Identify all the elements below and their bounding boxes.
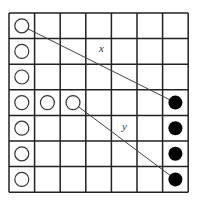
open-circle-icon xyxy=(15,172,29,186)
filled-circle-icon xyxy=(168,121,182,135)
open-circle-icon xyxy=(15,70,29,84)
filled-circle-icon xyxy=(168,172,182,186)
grid-diagram: xy xyxy=(0,0,200,203)
open-circle-icon xyxy=(15,96,29,110)
open-circle-icon xyxy=(15,147,29,161)
open-circle-icon xyxy=(15,44,29,58)
open-circle-icon xyxy=(40,96,54,110)
open-circle-icon xyxy=(15,19,29,33)
grid-lines xyxy=(9,13,188,192)
line-label-x: x xyxy=(98,42,104,54)
open-circle-icon xyxy=(15,121,29,135)
filled-circle-icon xyxy=(168,147,182,161)
line-label-y: y xyxy=(121,120,127,132)
open-circle-icon xyxy=(66,96,80,110)
filled-circle-icon xyxy=(168,96,182,110)
